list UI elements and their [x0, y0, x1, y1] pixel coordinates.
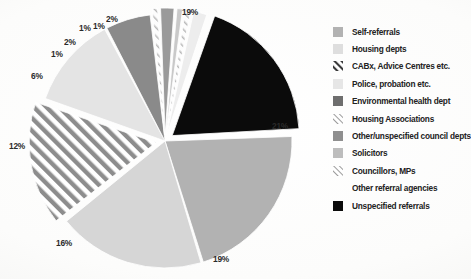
slice-percentage-label: 19%	[182, 6, 198, 17]
legend-swatch-icon	[333, 44, 343, 54]
slice-percentage-label: 1%	[51, 48, 63, 59]
legend-swatch-icon	[333, 114, 343, 124]
legend-item[interactable]: Housing Associations	[333, 110, 471, 127]
slice-percentage-label: 1%	[93, 20, 105, 31]
legend-swatch-icon	[333, 61, 343, 71]
legend-item[interactable]: Other/unspecified council depts	[333, 127, 471, 144]
legend-item[interactable]: Environmental health dept	[333, 93, 471, 110]
legend-swatch-icon	[333, 131, 343, 141]
legend-item-label: Other/unspecified council depts	[352, 131, 471, 141]
legend-item[interactable]: Self-referrals	[333, 23, 471, 40]
legend-item-label: Housing depts	[352, 44, 407, 54]
legend-swatch-icon	[333, 201, 343, 211]
legend-item-label: Housing Associations	[352, 114, 434, 124]
slice-percentage-label: 1%	[79, 22, 91, 33]
legend-swatch-icon	[333, 183, 343, 193]
legend-swatch-icon	[333, 79, 343, 89]
legend-item-label: Unspecified referrals	[352, 201, 430, 211]
slice-percentage-label: 16%	[56, 237, 72, 248]
legend-item[interactable]: Solicitors	[333, 145, 471, 162]
legend-item-label: Self-referrals	[352, 27, 400, 37]
legend-item-label: CABx, Advice Centres etc.	[352, 61, 450, 71]
chart-legend: Self-referralsHousing deptsCABx, Advice …	[333, 23, 471, 214]
legend-item-label: Police, probation etc.	[352, 79, 431, 89]
legend-swatch-icon	[333, 27, 343, 37]
legend-item-label: Solicitors	[352, 148, 387, 158]
legend-swatch-icon	[333, 96, 343, 106]
legend-item[interactable]: Other referral agencies	[333, 180, 471, 197]
legend-item[interactable]: Housing depts	[333, 40, 471, 57]
legend-item-label: Councillors, MPs	[352, 166, 415, 176]
slice-percentage-label: 6%	[31, 70, 43, 81]
legend-item[interactable]: Councillors, MPs	[333, 162, 471, 179]
legend-item[interactable]: Unspecified referrals	[333, 197, 471, 214]
legend-item-label: Environmental health dept	[352, 96, 450, 106]
slice-percentage-label: 2%	[106, 13, 118, 24]
slice-percentage-label: 21%	[272, 120, 288, 131]
legend-swatch-icon	[333, 166, 343, 176]
legend-item[interactable]: Police, probation etc.	[333, 75, 471, 92]
legend-item[interactable]: CABx, Advice Centres etc.	[333, 58, 471, 75]
slice-percentage-label: 12%	[9, 140, 25, 151]
slice-percentage-label: 2%	[64, 36, 76, 47]
legend-item-label: Other referral agencies	[352, 183, 437, 193]
legend-swatch-icon	[333, 148, 343, 158]
slice-percentage-label: 19%	[213, 253, 229, 264]
